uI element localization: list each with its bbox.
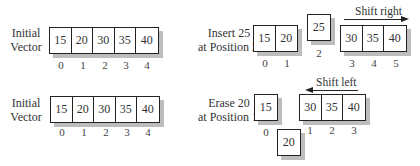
index-label: 5 [389,57,403,69]
panel-label: Erase 20 at Position 1 [206,96,252,124]
label-line: Erase 20 [206,96,252,110]
label-line: Vector [6,110,46,124]
vector-cell: 30 [341,26,363,51]
removed-cell: 20 [278,130,300,155]
vector-cell: 30 [94,97,116,122]
label-line: at Position 1 [198,110,252,124]
left-cell-box: 15 [254,94,278,121]
index-label: 1 [280,57,294,69]
left-segment-array: 15 20 [253,25,298,52]
index-label: 0 [258,57,272,69]
vector-cell: 35 [322,95,344,120]
vector-cell: 20 [276,26,298,51]
label-line: Insert 25 [206,26,252,40]
index-label: 4 [140,59,154,71]
inserted-cell-box: 25 [307,14,331,41]
label-line: Initial [6,96,46,110]
vector-cell: 40 [384,26,406,51]
vector-cell: 35 [115,28,137,53]
index-label: 1 [303,124,317,136]
panel-label: Initial Vector [6,96,46,124]
vector-cell: 40 [343,95,365,120]
shift-left-arrow [312,90,358,91]
vector-cell: 40 [136,28,158,53]
inserted-cell: 25 [308,15,330,40]
label-line: at Position 2 [198,40,252,54]
index-label: 1 [76,59,90,71]
removed-cell-box: 20 [277,129,301,156]
index-label: 0 [55,126,69,138]
vector-cell: 30 [93,28,115,53]
vector-cell: 15 [51,97,73,122]
right-segment-array: 30 35 40 [299,94,366,121]
index-label: 2 [98,59,112,71]
index-label: 2 [312,47,326,59]
vector-array: 15 20 30 35 40 [49,27,159,54]
index-label: 1 [77,126,91,138]
panel-label: Initial Vector [6,26,46,54]
vector-cell: 15 [254,26,276,51]
vector-cell: 20 [73,97,95,122]
right-segment-array: 30 35 40 [340,25,407,52]
index-label: 2 [325,124,339,136]
arrow-head-right-icon [401,16,409,22]
label-line: Vector [6,40,46,54]
vector-cell: 15 [50,28,72,53]
vector-cell: 35 [363,26,385,51]
index-label: 3 [347,124,361,136]
vector-cell: 40 [137,97,159,122]
index-label: 0 [54,59,68,71]
vector-cell: 15 [255,95,277,120]
index-label: 4 [367,57,381,69]
index-label: 0 [259,126,273,138]
vector-array: 15 20 30 35 40 [50,96,160,123]
shift-right-arrow [344,19,402,20]
shift-left-caption: Shift left [316,76,357,88]
index-label: 3 [119,59,133,71]
index-label: 4 [141,126,155,138]
index-label: 3 [120,126,134,138]
label-line: Initial [6,26,46,40]
index-label: 2 [99,126,113,138]
shift-right-caption: Shift right [355,5,402,17]
vector-cell: 20 [72,28,94,53]
index-label: 3 [345,57,359,69]
vector-cell: 35 [116,97,138,122]
vector-cell: 30 [300,95,322,120]
panel-label: Insert 25 at Position 2 [206,26,252,54]
